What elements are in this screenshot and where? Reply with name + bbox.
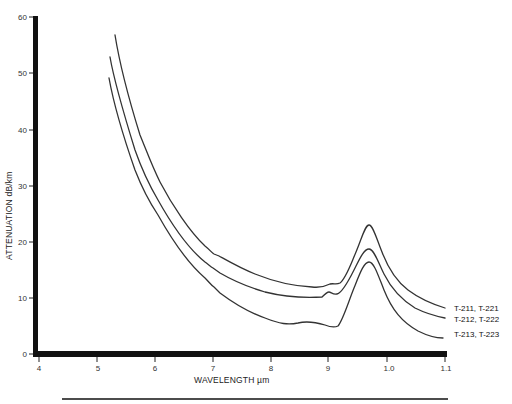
y-tick-labels: 60 50 40 30 20 10 0: [18, 13, 27, 359]
svg-text:5: 5: [96, 364, 101, 373]
svg-text:6: 6: [153, 364, 158, 373]
svg-text:60: 60: [18, 13, 27, 22]
series-label-t211-t221: T-211, T-221: [454, 304, 499, 313]
x-ticks: [39, 357, 445, 362]
attenuation-chart: 60 50 40 30 20 10 0 4 5 6 7 8 9 1.0 1.1 …: [0, 0, 512, 404]
x-axis-title: WAVELENGTH µm: [194, 375, 270, 385]
curve-t211-t221: [115, 35, 445, 308]
svg-text:8: 8: [269, 364, 274, 373]
x-axis: [33, 351, 447, 357]
svg-text:9: 9: [326, 364, 331, 373]
x-tick-labels: 4 5 6 7 8 9 1.0 1.1: [37, 364, 452, 373]
series-label-t213-t223: T-213, T-223: [454, 330, 500, 339]
svg-text:40: 40: [18, 126, 27, 135]
svg-text:50: 50: [18, 69, 27, 78]
svg-text:0: 0: [23, 350, 28, 359]
svg-text:30: 30: [18, 182, 27, 191]
svg-text:20: 20: [18, 238, 27, 247]
y-ticks: [29, 17, 33, 354]
svg-text:4: 4: [37, 364, 42, 373]
curve-t213-t223: [109, 78, 443, 338]
svg-text:10: 10: [18, 294, 27, 303]
svg-text:7: 7: [211, 364, 216, 373]
svg-text:1.0: 1.0: [383, 364, 395, 373]
svg-text:1.1: 1.1: [440, 364, 452, 373]
y-axis-title: ATTENUATION dB/km: [4, 171, 14, 260]
y-axis: [33, 16, 38, 357]
series-label-t212-t222: T-212, T-222: [454, 315, 500, 324]
curve-t212-t222: [110, 57, 445, 318]
